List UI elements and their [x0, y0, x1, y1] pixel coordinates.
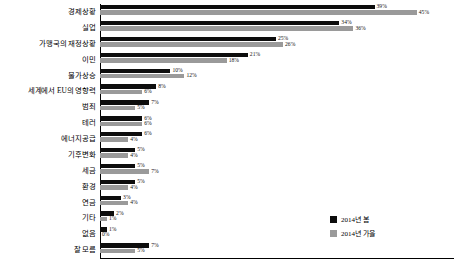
bar-value-label: 7% — [151, 169, 158, 175]
bar-line: 8% — [100, 84, 458, 88]
bar-line: 25% — [100, 37, 458, 41]
bar-line: 1% — [100, 217, 458, 221]
bar-group: 5%4% — [100, 147, 458, 163]
bar-line: 21% — [100, 53, 458, 57]
bar-autumn — [100, 58, 227, 62]
bar-autumn — [100, 185, 128, 189]
category-label: 세계에서 EU의 영향력 — [0, 87, 100, 95]
category-label: 경제상황 — [0, 8, 100, 16]
bar-line: 5% — [100, 106, 458, 110]
legend-item-spring: 2014년 봄 — [330, 214, 375, 224]
x-axis-line — [100, 258, 454, 259]
bar-group: 2%1% — [100, 210, 458, 226]
bar-line: 7% — [100, 100, 458, 104]
bar-group: 21%18% — [100, 52, 458, 68]
category-label: 범죄 — [0, 103, 100, 111]
bar-line: 4% — [100, 137, 458, 141]
bar-spring — [100, 164, 135, 168]
category-label: 물가상승 — [0, 72, 100, 80]
bar-value-label: 26% — [285, 42, 295, 48]
legend-item-autumn: 2014년 가을 — [330, 228, 375, 238]
category-label: 환경 — [0, 183, 100, 191]
category-label: 잘 모름 — [0, 246, 100, 254]
bar-line: 6% — [100, 90, 458, 94]
bar-value-label: 2% — [116, 211, 123, 217]
bar-value-label: 8% — [158, 84, 165, 90]
bar-group: 6%4% — [100, 131, 458, 147]
bar-line: 7% — [100, 169, 458, 173]
chart-legend: 2014년 봄 2014년 가을 — [330, 214, 375, 238]
bar-autumn — [100, 249, 135, 253]
bar-group: 10%12% — [100, 68, 458, 84]
bar-line: 26% — [100, 42, 458, 46]
bar-value-label: 7% — [151, 100, 158, 106]
bar-value-label: 45% — [419, 10, 429, 16]
legend-swatch-icon — [330, 230, 337, 237]
bar-group: 7%5% — [100, 99, 458, 115]
chart-row: 기타2%1% — [0, 210, 458, 226]
bar-value-label: 4% — [130, 137, 137, 143]
bar-value-label: 34% — [341, 20, 351, 26]
chart-row: 테러6%6% — [0, 115, 458, 131]
bar-value-label: 4% — [130, 200, 137, 206]
bar-line: 4% — [100, 185, 458, 189]
chart-row: 물가상승10%12% — [0, 68, 458, 84]
bar-chart: 경제상황39%45%실업34%36%가맹국의 재정상황25%26%이민21%18… — [0, 0, 458, 273]
bar-autumn — [100, 122, 142, 126]
category-label: 테러 — [0, 119, 100, 127]
bar-group: 3%4% — [100, 195, 458, 211]
category-label: 기후변화 — [0, 151, 100, 159]
bar-line: 6% — [100, 122, 458, 126]
bar-autumn — [100, 201, 128, 205]
chart-row: 경제상황39%45% — [0, 4, 458, 20]
bar-value-label: 18% — [229, 58, 239, 64]
chart-row: 이민21%18% — [0, 52, 458, 68]
bar-value-label: 7% — [151, 243, 158, 249]
chart-row: 범죄7%5% — [0, 99, 458, 115]
bar-line: 0% — [100, 233, 458, 237]
bar-line: 10% — [100, 69, 458, 73]
bar-line: 2% — [100, 211, 458, 215]
bar-value-label: 6% — [144, 131, 151, 137]
bar-group: 6%6% — [100, 115, 458, 131]
bar-autumn — [100, 137, 128, 141]
bar-spring — [100, 196, 121, 200]
bar-line: 7% — [100, 243, 458, 247]
legend-swatch-icon — [330, 216, 337, 223]
bar-line: 4% — [100, 201, 458, 205]
bar-value-label: 36% — [355, 26, 365, 32]
bar-autumn — [100, 74, 184, 78]
bar-group: 8%6% — [100, 83, 458, 99]
bar-value-label: 5% — [137, 147, 144, 153]
category-label: 연금 — [0, 199, 100, 207]
bar-value-label: 5% — [137, 105, 144, 111]
bar-spring — [100, 5, 375, 9]
bar-group: 1%0% — [100, 226, 458, 242]
category-label: 가맹국의 재정상황 — [0, 40, 100, 48]
bar-group: 5%4% — [100, 179, 458, 195]
bar-line: 18% — [100, 58, 458, 62]
category-label: 없음 — [0, 230, 100, 238]
bar-line: 3% — [100, 196, 458, 200]
bar-group: 5%7% — [100, 163, 458, 179]
bar-autumn — [100, 10, 417, 14]
bar-value-label: 4% — [130, 153, 137, 159]
bar-value-label: 0% — [102, 232, 109, 238]
bar-line: 4% — [100, 153, 458, 157]
chart-row: 없음1%0% — [0, 226, 458, 242]
bar-autumn — [100, 42, 283, 46]
bar-line: 6% — [100, 132, 458, 136]
bar-autumn — [100, 26, 353, 30]
bar-group: 7%5% — [100, 242, 458, 258]
bar-value-label: 1% — [109, 216, 116, 222]
bar-value-label: 10% — [172, 68, 182, 74]
legend-label-autumn: 2014년 가을 — [341, 228, 375, 238]
bar-line: 5% — [100, 148, 458, 152]
category-label: 실업 — [0, 24, 100, 32]
bar-value-label: 4% — [130, 185, 137, 191]
category-label: 기타 — [0, 214, 100, 222]
bar-line: 5% — [100, 180, 458, 184]
chart-row: 실업34%36% — [0, 20, 458, 36]
bar-line: 34% — [100, 21, 458, 25]
chart-row: 잘 모름7%5% — [0, 242, 458, 258]
